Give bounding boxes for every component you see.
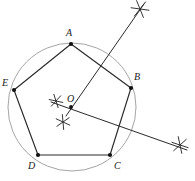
vertex-label-d: D xyxy=(28,161,35,171)
asterisk-mark-upper-right xyxy=(131,1,149,18)
vertex-label-c: C xyxy=(114,161,121,171)
ray-O-to-upper-right-mark xyxy=(66,4,144,116)
geometry-figure: ABCDEO xyxy=(0,0,195,181)
vertex-label-b: B xyxy=(134,72,140,82)
vertex-point-b xyxy=(129,86,133,90)
edge-B-C xyxy=(110,88,131,155)
asterisk-mark-lower-right xyxy=(172,137,188,154)
geometry-canvas xyxy=(0,0,195,181)
construction-marks-group xyxy=(49,1,188,154)
centre-point-o xyxy=(69,105,73,109)
ray-through-O-to-lower-right-mark xyxy=(51,102,187,150)
vertex-label-e: E xyxy=(2,78,8,88)
vertex-point-d xyxy=(36,153,40,157)
vertex-point-a xyxy=(69,42,73,46)
vertex-point-e xyxy=(12,88,16,92)
asterisk-mark-below-O xyxy=(56,115,70,130)
vertex-point-c xyxy=(108,153,112,157)
vertex-label-a: A xyxy=(66,28,72,38)
centre-label-o: O xyxy=(67,94,74,104)
edge-D-E xyxy=(14,90,38,155)
